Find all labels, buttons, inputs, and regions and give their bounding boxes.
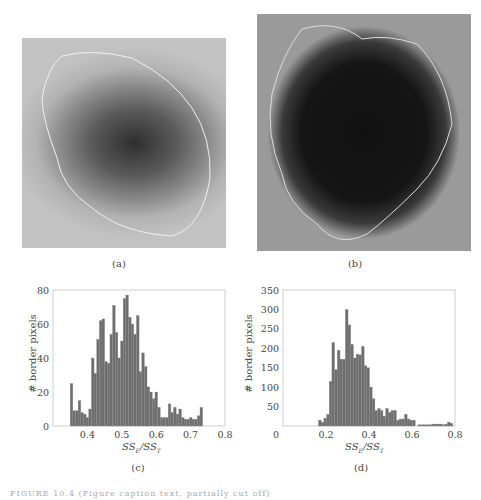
histogram-bar (139, 372, 142, 426)
histogram-bar (340, 359, 343, 426)
histogram-bar (155, 392, 158, 426)
histogram-bar (168, 404, 171, 426)
histogram-bar (81, 412, 84, 426)
histogram-bar (99, 321, 102, 426)
histogram-bar (166, 418, 169, 427)
figure-caption: FIGURE 10.4 (Figure caption text, partia… (10, 489, 270, 498)
histogram-bar (394, 410, 397, 426)
histogram-bar (189, 418, 192, 427)
svg-text:0.7: 0.7 (183, 429, 198, 440)
histogram-bar (375, 410, 378, 426)
histogram-bar (97, 339, 100, 426)
svg-text:200: 200 (261, 343, 279, 354)
histogram-bar (364, 366, 367, 426)
panel-label-b: (b) (335, 258, 375, 269)
histogram-bar (73, 411, 76, 426)
histogram-bar (324, 418, 327, 426)
histogram-bar (89, 409, 92, 426)
histogram-bar (174, 407, 177, 426)
histogram-bar (337, 350, 340, 426)
svg-text:0.6: 0.6 (149, 429, 164, 440)
svg-text:0: 0 (273, 429, 279, 440)
histogram-bar (335, 370, 338, 426)
svg-text:0.8: 0.8 (217, 429, 232, 440)
histogram-bar (380, 410, 383, 426)
histogram-bar (356, 354, 359, 426)
histogram-bar (413, 420, 416, 426)
border-contour-b (257, 14, 471, 251)
svg-text:0: 0 (43, 421, 49, 432)
histogram-bar (329, 381, 332, 426)
histogram-bar (197, 416, 200, 426)
histogram-bar (431, 424, 434, 426)
histogram-bar (160, 418, 163, 427)
histogram-bar (94, 373, 97, 426)
panel-label-d: (d) (341, 462, 381, 473)
histogram-bar (383, 416, 386, 426)
histogram-bar (181, 418, 184, 427)
histogram-bar (70, 384, 73, 427)
svg-text:100: 100 (261, 382, 279, 393)
histogram-bar (134, 334, 137, 426)
histogram-bar (332, 342, 335, 426)
panel-label-c: (c) (118, 462, 158, 473)
histogram-bar (391, 410, 394, 426)
svg-text:300: 300 (261, 304, 279, 315)
histogram-bar (410, 420, 413, 426)
panel-label-a: (a) (99, 258, 139, 269)
svg-text:50: 50 (267, 401, 279, 412)
histogram-bar (126, 295, 129, 426)
histogram-bar (442, 425, 445, 426)
histogram-bar (429, 425, 432, 426)
histogram-bar (351, 344, 354, 426)
histogram-bar (348, 325, 351, 426)
histogram-bar (437, 424, 440, 426)
svg-text:0.4: 0.4 (80, 429, 95, 440)
histogram-bar (176, 414, 179, 426)
svg-text:0.2: 0.2 (318, 429, 333, 440)
histogram-bar (439, 424, 442, 426)
histogram-bar (150, 392, 153, 426)
histogram-bar (131, 324, 134, 426)
histogram-bar (118, 358, 121, 426)
x-axis-label-d: SSE/SST (345, 441, 384, 454)
histogram-bar (142, 353, 145, 426)
histogram-bar (179, 409, 182, 426)
histogram-bar (359, 355, 362, 426)
histogram-bar (83, 414, 86, 426)
histogram-bar (107, 363, 110, 426)
histogram-bar (113, 305, 116, 426)
histogram-bar (388, 412, 391, 426)
histogram-bar (372, 399, 375, 426)
histogram-bar (407, 419, 410, 426)
lesion-image-a (22, 38, 226, 248)
histogram-bar (152, 399, 155, 426)
histogram-bar (105, 361, 108, 426)
histogram-bar (128, 317, 131, 426)
histogram-bar (421, 425, 424, 426)
svg-text:20: 20 (37, 387, 49, 398)
histogram-bar (327, 414, 330, 426)
histogram-bar (147, 387, 150, 426)
histogram-bar (110, 334, 113, 426)
y-axis-label-c-text: # border pixels (27, 314, 38, 393)
histogram-bar (136, 316, 139, 427)
histogram-bar (361, 346, 364, 426)
histogram-bar (370, 387, 373, 426)
histogram-bar (426, 425, 429, 426)
histogram-bar (345, 309, 348, 426)
svg-text:40: 40 (37, 353, 49, 364)
histogram-bar (163, 418, 166, 427)
y-axis-label-c: # border pixels (27, 304, 38, 404)
svg-text:150: 150 (261, 362, 279, 373)
y-axis-label-d: # border pixels (243, 304, 254, 404)
x-axis-label-c: SSE/SST (122, 441, 161, 454)
histogram-bar (187, 419, 190, 426)
y-axis-label-d-text: # border pixels (243, 314, 254, 393)
histogram-bar (121, 341, 124, 426)
histogram-bar (404, 414, 407, 426)
histogram-bar (184, 419, 187, 426)
histogram-bar (445, 424, 448, 426)
histogram-bar (434, 424, 437, 426)
histogram-bar (195, 419, 198, 426)
